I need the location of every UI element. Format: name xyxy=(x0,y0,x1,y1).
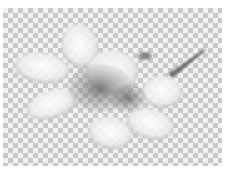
petal-right xyxy=(142,76,182,108)
bud-icon xyxy=(138,52,152,60)
petal-left xyxy=(12,49,72,87)
stem-icon xyxy=(168,48,206,78)
flower-image xyxy=(0,0,230,174)
